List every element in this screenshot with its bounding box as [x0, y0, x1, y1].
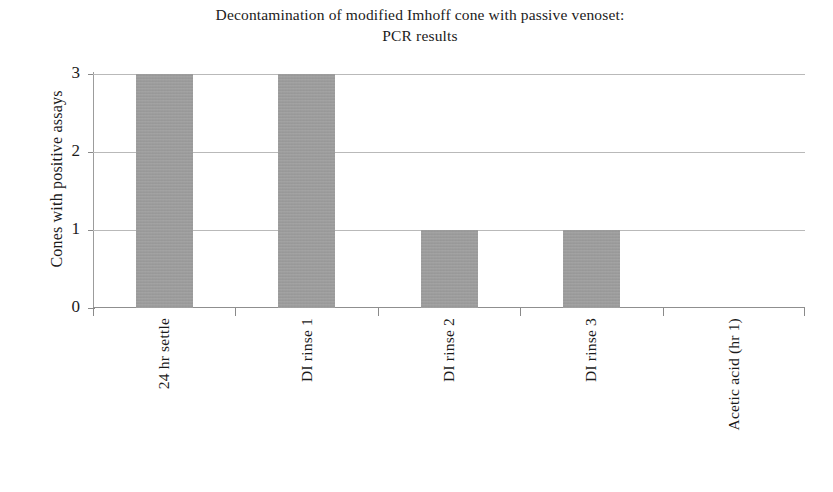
x-label-slot-1: DI rinse 1	[235, 318, 377, 488]
gridline-3	[93, 74, 805, 75]
bar-24-hr-settle[interactable]	[136, 74, 193, 308]
x-tick-mark-4	[663, 308, 664, 316]
chart-title: Decontamination of modified Imhoff cone …	[120, 4, 720, 46]
plot-area	[93, 74, 805, 308]
y-tick-label-3: 3	[40, 63, 80, 83]
y-tick-label-2: 2	[40, 141, 80, 161]
x-label-di-rinse-2: DI rinse 2	[440, 318, 458, 382]
x-label-slot-4: Acetic acid (hr 1)	[663, 318, 805, 488]
y-tick-label-0: 0	[40, 297, 80, 317]
x-label-24-hr-settle: 24 hr settle	[155, 318, 173, 389]
x-label-slot-3: DI rinse 3	[520, 318, 662, 488]
x-label-slot-0: 24 hr settle	[93, 318, 235, 488]
x-tick-mark-3	[520, 308, 521, 316]
bar-di-rinse-2[interactable]	[421, 230, 478, 308]
x-tick-mark-0	[93, 308, 94, 316]
x-axis-category-labels: 24 hr settle DI rinse 1 DI rinse 2 DI ri…	[93, 318, 805, 488]
gridline-2	[93, 152, 805, 153]
bar-chart-figure: Decontamination of modified Imhoff cone …	[0, 0, 833, 492]
x-label-di-rinse-1: DI rinse 1	[298, 318, 316, 382]
bar-di-rinse-1[interactable]	[278, 74, 335, 308]
x-label-di-rinse-3: DI rinse 3	[582, 318, 600, 382]
x-tick-mark-2	[378, 308, 379, 316]
y-axis-tick-labels: 3 2 1 0	[36, 74, 80, 308]
x-label-acetic-acid-hr-1: Acetic acid (hr 1)	[725, 318, 743, 430]
x-axis-tick-marks	[93, 308, 805, 317]
x-tick-mark-1	[235, 308, 236, 316]
y-tick-label-1: 1	[40, 219, 80, 239]
x-label-slot-2: DI rinse 2	[378, 318, 520, 488]
bar-di-rinse-3[interactable]	[563, 230, 620, 308]
x-tick-mark-5	[804, 308, 805, 316]
